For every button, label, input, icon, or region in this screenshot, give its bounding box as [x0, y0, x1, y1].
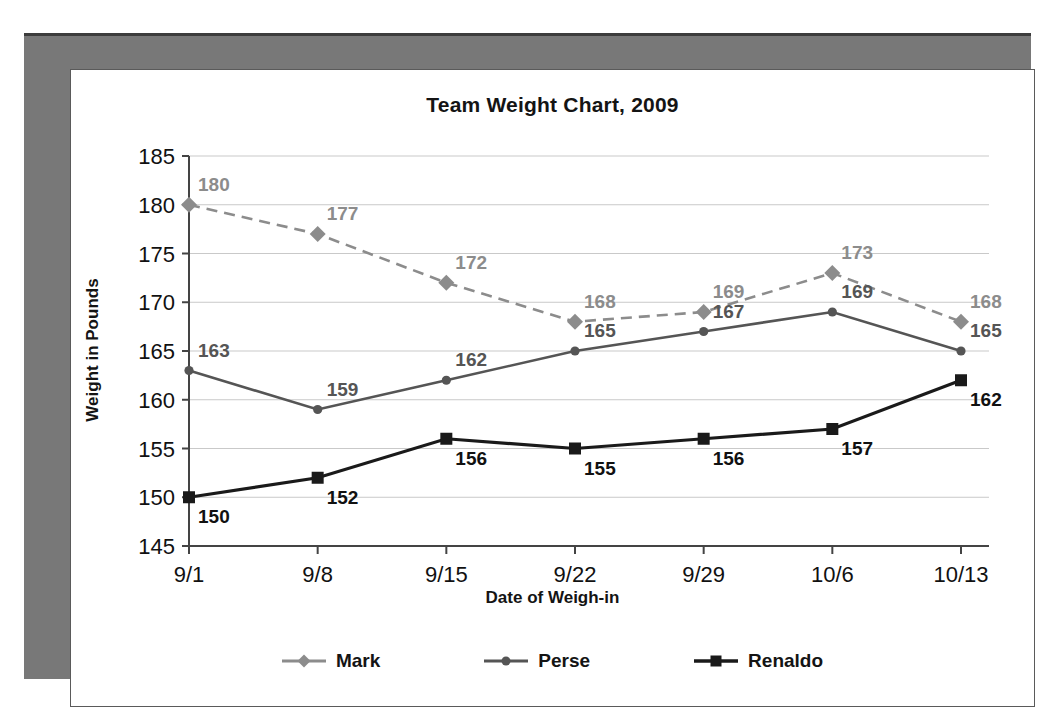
data-point-label: 163	[198, 340, 230, 361]
data-point-marker[interactable]	[824, 265, 840, 281]
data-point-marker[interactable]	[698, 433, 710, 445]
line-chart-plot: 145150155160165170175180185 9/19/89/159/…	[71, 70, 1035, 707]
data-point-label: 169	[841, 281, 873, 302]
legend-label-perse: Perse	[538, 650, 590, 672]
x-tick-label: 9/29	[682, 562, 725, 587]
data-point-label: 172	[455, 252, 487, 273]
legend-swatch-mark-icon	[282, 652, 326, 670]
chart-canvas: Team Weight Chart, 2009 Weight in Pounds…	[70, 69, 1035, 707]
data-point-marker[interactable]	[570, 346, 579, 355]
data-point-label: 159	[327, 379, 359, 400]
legend-item-mark[interactable]: Mark	[282, 650, 380, 672]
x-tick-label: 9/15	[425, 562, 468, 587]
data-point-label: 180	[198, 174, 230, 195]
data-point-label: 167	[713, 301, 745, 322]
y-tick-label: 175	[138, 242, 175, 267]
x-tick-label: 9/22	[554, 562, 597, 587]
data-point-marker[interactable]	[567, 314, 583, 330]
y-tick-label: 180	[138, 193, 175, 218]
axes	[182, 156, 989, 554]
data-point-label: 168	[970, 291, 1002, 312]
y-tick-label: 185	[138, 144, 175, 169]
data-point-marker[interactable]	[569, 443, 581, 455]
legend-item-perse[interactable]: Perse	[484, 650, 590, 672]
y-tick-label: 170	[138, 290, 175, 315]
data-point-label: 162	[455, 349, 487, 370]
gridlines	[189, 156, 989, 546]
data-point-marker[interactable]	[953, 314, 969, 330]
data-point-label: 168	[584, 291, 616, 312]
legend-swatch-perse-icon	[484, 652, 528, 670]
data-point-marker[interactable]	[440, 433, 452, 445]
data-point-marker[interactable]	[312, 472, 324, 484]
data-point-marker[interactable]	[828, 307, 837, 316]
data-point-marker[interactable]	[696, 304, 712, 320]
data-point-label: 157	[841, 438, 873, 459]
x-tick-label: 10/13	[933, 562, 988, 587]
data-point-marker[interactable]	[826, 423, 838, 435]
y-tick-label: 145	[138, 534, 175, 559]
legend-swatch-renaldo-icon	[694, 652, 738, 670]
data-point-label: 162	[970, 389, 1002, 410]
y-tick-label: 155	[138, 437, 175, 462]
data-point-marker[interactable]	[956, 346, 965, 355]
data-point-label: 156	[713, 448, 745, 469]
data-point-label: 150	[198, 506, 230, 527]
data-point-marker[interactable]	[184, 366, 193, 375]
y-tick-label: 160	[138, 388, 175, 413]
data-point-marker[interactable]	[310, 226, 326, 242]
y-tick-labels: 145150155160165170175180185	[138, 144, 175, 559]
x-tick-label: 9/8	[302, 562, 333, 587]
chart-legend: Mark Perse Renaldo	[71, 650, 1034, 672]
y-tick-label: 165	[138, 339, 175, 364]
data-point-label: 165	[584, 320, 616, 341]
data-point-marker[interactable]	[699, 327, 708, 336]
data-point-marker[interactable]	[438, 275, 454, 291]
x-tick-label: 9/1	[174, 562, 205, 587]
x-tick-labels: 9/19/89/159/229/2910/610/13	[174, 562, 989, 587]
data-point-label: 173	[841, 242, 873, 263]
data-point-label: 177	[327, 203, 359, 224]
x-tick-label: 10/6	[811, 562, 854, 587]
data-point-marker[interactable]	[442, 376, 451, 385]
legend-item-renaldo[interactable]: Renaldo	[694, 650, 823, 672]
scanned-page: Team Weight Chart, 2009 Weight in Pounds…	[0, 0, 1055, 707]
data-point-label: 165	[970, 320, 1002, 341]
data-point-label: 156	[455, 448, 487, 469]
legend-label-renaldo: Renaldo	[748, 650, 823, 672]
data-point-marker[interactable]	[181, 197, 197, 213]
data-point-marker[interactable]	[955, 374, 967, 386]
data-point-label: 169	[713, 281, 745, 302]
series-line-mark	[189, 205, 961, 322]
data-point-marker[interactable]	[313, 405, 322, 414]
data-point-label: 155	[584, 458, 616, 479]
data-point-marker[interactable]	[183, 491, 195, 503]
data-point-label: 152	[327, 487, 359, 508]
page-frame-border: Team Weight Chart, 2009 Weight in Pounds…	[24, 33, 1031, 679]
y-tick-label: 150	[138, 485, 175, 510]
legend-label-mark: Mark	[336, 650, 380, 672]
